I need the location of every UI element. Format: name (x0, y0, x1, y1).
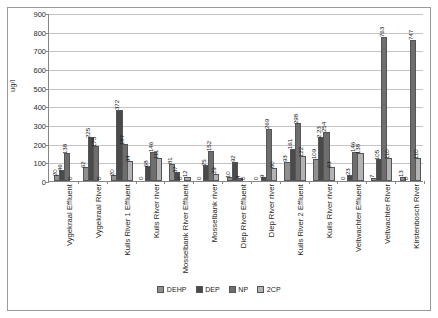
bar-group: 109240 (222, 14, 251, 181)
bar-value-label: 175 (90, 137, 97, 147)
x-axis-label: Kirstenbosch River (412, 184, 421, 249)
bar (184, 177, 190, 181)
bar-value-label: 9 (258, 174, 265, 177)
y-tick-label: 500 (33, 84, 46, 93)
bar-value-label: 152 (205, 141, 212, 151)
legend-label: DEP (205, 286, 220, 293)
bar-value-label: 0 (95, 176, 102, 179)
y-axis-tick-labels: 0100200300400500600700800900 (18, 14, 46, 182)
x-axis-label: Vygekraal River (94, 184, 103, 238)
y-tickmark (46, 33, 49, 34)
bar-value-label: 0 (137, 176, 144, 179)
bar-chart: ug/l 0100200300400500600700800900 204613… (0, 0, 438, 318)
y-tick-label: 900 (33, 10, 46, 19)
bar (357, 153, 363, 181)
legend-item[interactable]: 2CP (257, 286, 280, 293)
bar-value-label: 269 (263, 119, 270, 129)
bar (127, 161, 133, 181)
bar-value-label: 0 (239, 176, 246, 179)
x-axis-label: Vygekraal Effluent (65, 184, 74, 246)
bar-value-label: 747 (407, 30, 414, 40)
bar-value-label: 161 (286, 139, 293, 149)
bar-value-label: 0 (66, 176, 73, 179)
bar-group: 8137012 (164, 14, 193, 181)
plot-area: 2046138062225175020372187940681461118137… (48, 14, 423, 182)
bar-value-label: 10 (224, 171, 231, 178)
x-axis-label: Veltwachter River (383, 184, 392, 244)
y-tick-label: 300 (33, 122, 46, 131)
bar-value-label: 37 (171, 166, 178, 173)
legend-swatch-icon (257, 286, 264, 293)
bar-value-label: 109 (310, 149, 317, 159)
bar (329, 167, 335, 181)
bar-group: 20461380 (49, 14, 78, 181)
y-tickmark (46, 107, 49, 108)
legend-label: NP (238, 286, 248, 293)
bar-group: 7105763110 (366, 14, 395, 181)
y-tickmark (46, 70, 49, 71)
bar-group: 1092.2325463 (309, 14, 338, 181)
y-tickmark (46, 182, 49, 183)
bar-group: 068146111 (136, 14, 165, 181)
bar-value-label: 138 (61, 144, 68, 154)
x-axis-label: Kuils River river (325, 184, 334, 238)
y-tick-label: 400 (33, 103, 46, 112)
y-tickmark (46, 51, 49, 52)
bar-value-label: 62 (79, 161, 86, 168)
y-tick-label: 800 (33, 28, 46, 37)
bar-value-label: 105 (373, 150, 380, 160)
bar-value-label: 372 (113, 100, 120, 110)
bar-value-label: 110 (412, 149, 419, 159)
bar (415, 158, 421, 181)
x-axis-label: Mosselbank river (210, 184, 219, 242)
y-tick-label: 200 (33, 140, 46, 149)
bar-value-label: 138 (354, 144, 361, 154)
bar-value-label: 0 (402, 176, 409, 179)
y-axis-title: ug/l (8, 52, 17, 92)
legend-item[interactable]: DEP (196, 286, 220, 293)
bar-group: 622251750 (78, 14, 107, 181)
bar-value-label: 23 (344, 169, 351, 176)
bar-value-label: 187 (118, 135, 125, 145)
x-axis-label: Kuils River river (152, 184, 161, 238)
bar-value-label: 63 (325, 161, 332, 168)
bar (300, 156, 306, 181)
x-axis-label: Diep River Effluent (239, 184, 248, 248)
legend-label: 2CP (267, 286, 281, 293)
legend-swatch-icon (196, 286, 203, 293)
bar-value-label: 20 (108, 169, 115, 176)
bar-value-label: 75 (200, 159, 207, 166)
bar-value-label: 0 (195, 176, 202, 179)
bar-group: 07515229 (193, 14, 222, 181)
x-axis-label: Diep River river (267, 184, 276, 237)
bar-group: 130747110 (395, 14, 424, 181)
bar-value-label: 60 (268, 162, 275, 169)
chart-legend: DEHPDEPNP2CP (7, 286, 431, 293)
bar-value-label: 122 (297, 147, 304, 157)
x-axis-label: Mosselbank River Effluent (181, 184, 190, 273)
y-tickmark (46, 163, 49, 164)
bar (213, 174, 219, 181)
bar-value-label: 29 (210, 167, 217, 174)
legend-item[interactable]: NP (229, 286, 248, 293)
y-tickmark (46, 89, 49, 90)
legend-item[interactable]: DEHP (157, 286, 186, 293)
y-tickmark (46, 145, 49, 146)
bar-value-label: 93 (281, 155, 288, 162)
bar (156, 158, 162, 181)
bar-value-label: 110 (383, 149, 390, 159)
bar-value-label: 763 (378, 27, 385, 37)
x-tickmark (424, 181, 425, 184)
bar-value-label: 68 (142, 160, 149, 167)
bar-value-label: 111 (152, 150, 159, 159)
bars-layer: 2046138062225175020372187940681461118137… (49, 14, 423, 181)
bar-value-label: 7 (368, 175, 375, 178)
y-tickmark (46, 14, 49, 15)
bar-value-label: 254 (320, 122, 327, 132)
bar-group: 0926960 (251, 14, 280, 181)
x-axis-label: Veltwachter Effluent (354, 184, 363, 252)
bar-value-label: 12 (181, 171, 188, 178)
bar-value-label: 92 (229, 156, 236, 163)
bar-value-label: 46 (56, 164, 63, 171)
bar-value-label: 81 (166, 158, 173, 165)
